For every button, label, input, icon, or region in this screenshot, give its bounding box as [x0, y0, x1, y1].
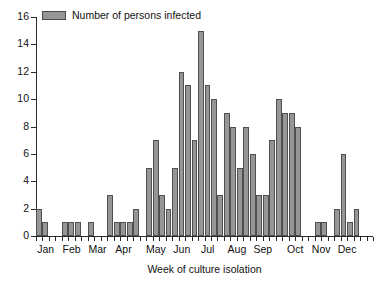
x-axis-month-label: Mar: [89, 243, 107, 255]
bar: [179, 72, 185, 236]
x-axis-title: Week of culture isolation: [36, 263, 373, 275]
x-axis-tick: [230, 237, 231, 241]
y-axis-tick-label-wrap: 8: [0, 121, 29, 131]
x-axis-tick: [185, 237, 186, 241]
bar: [295, 127, 301, 237]
bar: [62, 222, 68, 236]
x-axis-tick: [205, 237, 206, 241]
bar: [75, 222, 81, 236]
bar: [146, 168, 152, 236]
x-axis-month-label: Apr: [115, 243, 131, 255]
y-axis-tick-label-wrap: 16: [0, 11, 29, 21]
bar: [230, 127, 236, 237]
y-axis-tick-label-wrap: 4: [0, 175, 29, 185]
bar: [334, 209, 340, 236]
x-axis-tick: [341, 237, 342, 241]
y-axis-tick-label: 2: [3, 203, 29, 213]
bar: [289, 113, 295, 236]
bar: [120, 222, 126, 236]
bar: [347, 222, 353, 236]
x-axis-month-label: Jul: [201, 243, 214, 255]
x-axis-tick: [295, 237, 296, 241]
y-axis-tick-label: 16: [3, 11, 29, 21]
y-axis-tick-label: 10: [3, 93, 29, 103]
x-axis-tick: [250, 237, 251, 241]
x-axis-tick: [88, 237, 89, 241]
x-axis-tick: [107, 237, 108, 241]
bar: [166, 209, 172, 236]
bar: [243, 127, 249, 237]
x-axis-tick: [159, 237, 160, 241]
x-axis-tick: [179, 237, 180, 241]
x-axis-month-label: May: [146, 243, 166, 255]
x-axis-tick: [302, 237, 303, 241]
x-axis-tick: [360, 237, 361, 241]
x-axis-tick: [334, 237, 335, 241]
x-axis-tick: [166, 237, 167, 241]
bar: [263, 195, 269, 236]
bar: [127, 222, 133, 236]
x-axis-month-label: Jan: [37, 243, 54, 255]
bar: [224, 113, 230, 236]
y-axis-tick-label-wrap: 14: [0, 38, 29, 48]
y-axis-tick-label: 8: [3, 121, 29, 131]
y-axis-tick-label-wrap: 0: [0, 230, 29, 240]
bar: [185, 85, 191, 236]
x-axis-tick: [81, 237, 82, 241]
x-axis-month-label: Dec: [338, 243, 357, 255]
x-axis-tick: [211, 237, 212, 241]
x-axis-tick: [276, 237, 277, 241]
bar: [341, 154, 347, 236]
x-axis-tick: [153, 237, 154, 241]
x-axis-tick: [282, 237, 283, 241]
x-axis-tick: [289, 237, 290, 241]
x-axis-month-label: Sep: [253, 243, 272, 255]
x-axis-tick: [68, 237, 69, 241]
bar: [198, 31, 204, 236]
x-axis-month-label: Nov: [312, 243, 331, 255]
bar: [256, 195, 262, 236]
bar: [237, 168, 243, 236]
bar: [133, 209, 139, 236]
x-axis-tick: [172, 237, 173, 241]
y-axis-tick-label: 0: [3, 230, 29, 240]
bar: [172, 168, 178, 236]
y-axis-tick-label-wrap: 2: [0, 203, 29, 213]
x-axis-tick: [146, 237, 147, 241]
x-axis-tick: [49, 237, 50, 241]
x-axis-tick: [75, 237, 76, 241]
x-axis-tick: [114, 237, 115, 241]
bar: [88, 222, 94, 236]
x-axis-tick: [127, 237, 128, 241]
x-axis-tick: [133, 237, 134, 241]
bar: [107, 195, 113, 236]
x-axis-tick: [256, 237, 257, 241]
x-axis-month-label: Jun: [173, 243, 190, 255]
bar: [321, 222, 327, 236]
x-axis-tick: [224, 237, 225, 241]
x-axis-tick: [237, 237, 238, 241]
x-axis-tick: [42, 237, 43, 241]
x-axis-tick: [120, 237, 121, 241]
x-axis-tick: [263, 237, 264, 241]
y-axis-tick-label: 14: [3, 38, 29, 48]
x-axis-tick: [308, 237, 309, 241]
y-axis-tick-label: 12: [3, 66, 29, 76]
bar: [250, 154, 256, 236]
x-axis-month-label: Aug: [228, 243, 247, 255]
bar: [192, 140, 198, 236]
x-axis-tick: [55, 237, 56, 241]
x-axis-tick: [373, 237, 374, 241]
x-axis-tick: [140, 237, 141, 241]
y-axis-tick-label-wrap: 6: [0, 148, 29, 158]
x-axis-tick: [347, 237, 348, 241]
x-axis-tick: [198, 237, 199, 241]
x-axis-tick: [321, 237, 322, 241]
x-axis-tick: [315, 237, 316, 241]
bar: [205, 85, 211, 236]
bar: [282, 113, 288, 236]
bar: [36, 209, 42, 236]
x-axis-tick: [354, 237, 355, 241]
bar: [315, 222, 321, 236]
bar-chart: Number of persons infected 0246810121416…: [0, 0, 389, 288]
